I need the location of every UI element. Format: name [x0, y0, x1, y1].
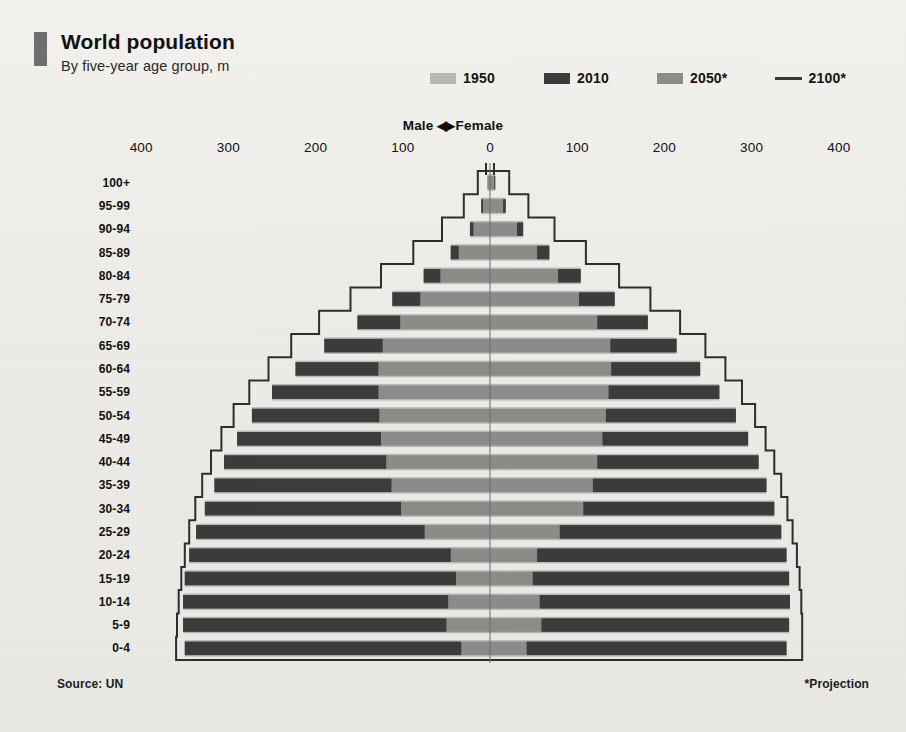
bar-2010-female: [494, 176, 495, 190]
bar-2010-male: [185, 572, 456, 586]
bar-2010-female: [602, 432, 748, 446]
x-axis-tick-label: 400: [111, 140, 171, 155]
bar-2010-female: [558, 269, 581, 283]
x-axis-tick-label: 100: [373, 140, 433, 155]
bar-2010-female: [610, 339, 676, 353]
chart-legend: 195020102050*2100*: [430, 70, 846, 86]
bar-2010-male: [205, 502, 401, 516]
source-note: Source: UN: [57, 677, 123, 691]
bar-2010-female: [583, 502, 774, 516]
bar-2010-female: [503, 199, 506, 213]
page-title: World population: [61, 30, 235, 54]
bar-2010-female: [611, 362, 700, 376]
bar-2010-female: [606, 409, 736, 423]
chart-page: World population By five-year age group,…: [0, 0, 906, 732]
projection-note: *Projection: [805, 677, 869, 691]
bar-2010-female: [540, 595, 790, 609]
bar-2010-female: [533, 572, 789, 586]
bar-2010-male: [451, 246, 459, 260]
bar-2010-female: [541, 618, 789, 632]
bar-2010-female: [537, 548, 786, 562]
bar-2010-male: [237, 432, 381, 446]
x-axis-tick-label: 0: [460, 140, 520, 155]
legend-item-2050: 2050*: [657, 70, 728, 86]
legend-label: 2050*: [690, 70, 728, 86]
brand-mark: [34, 32, 47, 66]
bar-2010-male: [214, 479, 391, 493]
legend-swatch-icon: [544, 73, 570, 84]
bar-2010-male: [224, 455, 386, 469]
population-pyramid-svg: [0, 163, 906, 663]
bar-2010-female: [609, 385, 720, 399]
bar-2010-female: [517, 222, 523, 236]
bar-2010-female: [597, 316, 648, 330]
x-axis-tick-label: 200: [634, 140, 694, 155]
legend-swatch-icon: [657, 73, 683, 84]
bar-2010-male: [296, 362, 379, 376]
bar-2010-female: [527, 642, 787, 656]
bar-2010-female: [579, 292, 615, 306]
male-label: Male: [403, 118, 434, 133]
legend-label: 2100*: [809, 70, 847, 86]
chart-subtitle: By five-year age group, m: [61, 58, 230, 74]
bar-2010-male: [252, 409, 379, 423]
x-axis-tick-label: 300: [198, 140, 258, 155]
x-axis-tick-label: 400: [809, 140, 869, 155]
bar-2010-female: [560, 525, 781, 539]
bar-2010-male: [189, 548, 451, 562]
bar-2010-male: [424, 269, 441, 283]
legend-item-2100: 2100*: [775, 70, 847, 86]
x-axis-tick-label: 100: [547, 140, 607, 155]
bar-2010-male: [470, 222, 473, 236]
bar-2010-female: [597, 455, 758, 469]
bar-2010-male: [185, 642, 461, 656]
bar-2010-female: [537, 246, 549, 260]
bar-2010-male: [272, 385, 378, 399]
pyramid-plot-area: [0, 163, 906, 663]
male-female-divider-label: Male◀▶Female: [0, 118, 906, 133]
x-axis-tick-label: 300: [722, 140, 782, 155]
bar-2010-male: [183, 618, 446, 632]
x-axis-ticks: 4003002001000100200300400: [0, 140, 906, 160]
bar-2010-female: [593, 479, 767, 493]
bar-2010-male: [357, 316, 400, 330]
bar-2010-male: [481, 199, 483, 213]
legend-item-1950: 1950: [430, 70, 495, 86]
bar-2010-male: [183, 595, 448, 609]
bar-2010-male: [392, 292, 420, 306]
female-label: Female: [456, 118, 504, 133]
bar-2010-male: [196, 525, 424, 539]
legend-label: 1950: [463, 70, 495, 86]
legend-line-icon: [775, 77, 802, 80]
left-right-arrows-icon: ◀▶: [437, 118, 453, 133]
bar-2010-male: [324, 339, 382, 353]
legend-swatch-icon: [430, 73, 456, 84]
x-axis-tick-label: 200: [286, 140, 346, 155]
legend-item-2010: 2010: [544, 70, 609, 86]
legend-label: 2010: [577, 70, 609, 86]
